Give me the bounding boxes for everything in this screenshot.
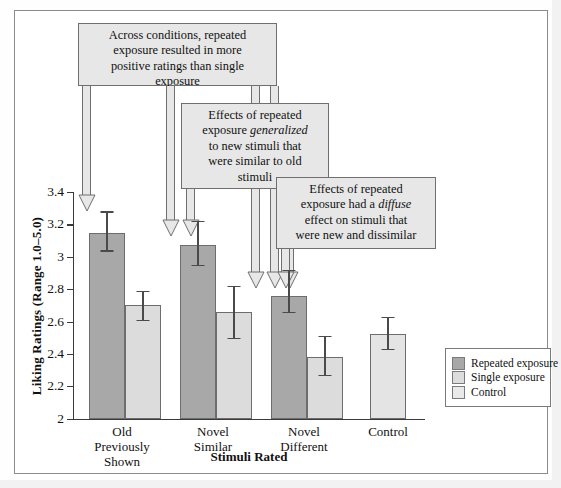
legend-label-single-exposure: Single exposure: [471, 371, 545, 384]
errorcap-bottom-control: [382, 349, 395, 350]
y-tick-3.2: [67, 224, 73, 225]
legend: Repeated exposure Single exposure Contro…: [445, 348, 551, 407]
legend-item-repeated-exposure: Repeated exposure: [452, 357, 543, 370]
y-tick-2.6: [67, 322, 73, 323]
errorcap-top-novelsimilar-single: [228, 286, 241, 287]
callout-overall: Across conditions, repeated exposure res…: [78, 23, 277, 86]
y-tick-2.8: [67, 289, 73, 290]
errorbar-old-repeated: [106, 211, 107, 250]
legend-item-single-exposure: Single exposure: [452, 371, 543, 384]
errorcap-top-old-single: [137, 291, 150, 292]
x-axis-line: [73, 419, 425, 420]
bar-old-repeated: [89, 233, 125, 419]
y-tick-2: [67, 419, 73, 420]
y-axis-title: Liking Ratings (Range 1.0–5.0): [27, 192, 47, 420]
y-tick-2.2: [67, 386, 73, 387]
errorcap-top-noveldifferent-repeated: [283, 270, 296, 271]
legend-swatch-control: [452, 386, 465, 399]
errorbar-novelsimilar-single: [233, 286, 234, 338]
y-tick-label-3.4: 3.4: [47, 185, 64, 199]
y-tick-label-3: 3: [57, 250, 64, 264]
legend-swatch-single-exposure: [452, 371, 465, 384]
y-tick-2.4: [67, 354, 73, 355]
callout-overall-line-1: Across conditions, repeated: [87, 28, 268, 43]
errorcap-bottom-noveldifferent-repeated: [283, 312, 296, 313]
callout-generalized-line-3: to new stimuli that: [190, 139, 320, 154]
x-label-control: Control: [333, 424, 443, 439]
y-tick-label-2.8: 2.8: [47, 282, 64, 296]
callout-overall-line-2: exposure resulted in more: [87, 43, 268, 58]
legend-label-repeated-exposure: Repeated exposure: [471, 357, 558, 370]
errorbar-control: [387, 317, 388, 349]
errorbar-novelsimilar-repeated: [197, 221, 198, 265]
y-tick-3: [67, 257, 73, 258]
bar-old-single: [125, 305, 161, 418]
callout-generalized-line-4: were similar to old: [190, 154, 320, 169]
y-tick-3.4: [67, 192, 73, 193]
callout-generalized-emphasis: generalized: [250, 123, 308, 137]
errorcap-top-old-repeated: [101, 211, 114, 212]
x-axis-title: Stimuli Rated: [73, 449, 425, 465]
errorcap-bottom-old-single: [137, 320, 150, 321]
y-tick-label-2.4: 2.4: [47, 347, 64, 361]
y-tick-label-2.2: 2.2: [47, 379, 64, 393]
errorbar-noveldifferent-repeated: [288, 270, 289, 312]
callout-generalized-line-2: exposure generalized: [190, 123, 320, 138]
errorcap-top-control: [382, 317, 395, 318]
bar-novelsimilar-repeated: [180, 245, 216, 418]
y-axis-title-text: Liking Ratings (Range 1.0–5.0): [29, 217, 45, 395]
errorcap-bottom-novelsimilar-repeated: [192, 265, 205, 266]
errorcap-bottom-noveldifferent-single: [319, 375, 332, 376]
callout-generalized-text: exposure: [202, 123, 250, 137]
errorcap-bottom-novelsimilar-single: [228, 338, 241, 339]
y-tick-label-3.2: 3.2: [47, 218, 64, 232]
plot-area: 3.4 3.2 3 2.8 2.6 2.4 2.2 2: [73, 192, 425, 420]
errorcap-top-novelsimilar-repeated: [192, 221, 205, 222]
legend-swatch-repeated-exposure: [452, 357, 465, 370]
callout-overall-line-4: exposure: [87, 74, 268, 89]
legend-label-control: Control: [471, 386, 506, 399]
callout-overall-line-3: positive ratings than single: [87, 59, 268, 74]
figure-frame: Across conditions, repeated exposure res…: [14, 10, 548, 474]
errorbar-noveldifferent-single: [324, 336, 325, 375]
callout-generalized-line-1: Effects of repeated: [190, 108, 320, 123]
y-tick-label-2.6: 2.6: [47, 315, 64, 329]
x-label-control-line1: Control: [333, 424, 443, 439]
y-axis-line: [73, 192, 74, 420]
y-tick-label-2: 2: [57, 412, 64, 426]
legend-item-control: Control: [452, 386, 543, 399]
errorbar-old-single: [142, 291, 143, 320]
bar-noveldifferent-repeated: [271, 296, 307, 419]
errorcap-top-noveldifferent-single: [319, 336, 332, 337]
errorcap-bottom-old-repeated: [101, 250, 114, 251]
